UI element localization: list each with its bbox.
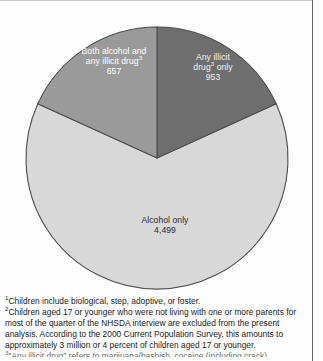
pie-chart-figure: Both alcohol and any illicit drug3 657 A… (0, 0, 323, 361)
pie-label-both-line2: any illicit drug (86, 56, 139, 66)
footnote-3: 3"Any illicit drug" refers to marijuana/… (5, 351, 305, 357)
pie-label-illicit-line2: drug (193, 62, 210, 72)
pie-label-illicit-value: 953 (176, 72, 250, 82)
footnote-1: 1Children include biological, step, adop… (5, 296, 305, 307)
pie-label-alcohol-value: 4,499 (110, 225, 220, 235)
pie-label-both-footnote-marker: 3 (139, 54, 143, 61)
pie-chart-svg (0, 0, 323, 292)
pie-label-illicit-line3: only (217, 62, 233, 72)
pie-label-any-illicit-drug-only: Any illicit drug3 only 953 (176, 52, 250, 82)
pie-label-both-alcohol-and-illicit: Both alcohol and any illicit drug3 657 (58, 46, 170, 76)
footnote-3-text: "Any illicit drug" refers to marijuana/h… (5, 351, 269, 357)
pie-label-both-value: 657 (58, 66, 170, 76)
footnote-2: 2Children aged 17 or younger who were no… (5, 307, 305, 351)
pie-label-illicit-footnote-marker: 3 (211, 60, 215, 67)
pie-chart: Both alcohol and any illicit drug3 657 A… (0, 0, 323, 292)
footnote-1-text: Children include biological, step, adopt… (8, 296, 200, 306)
pie-label-both-line1: Both alcohol and (82, 46, 147, 56)
footnotes-block: 1Children include biological, step, adop… (5, 296, 305, 351)
pie-label-alcohol-line1: Alcohol only (142, 215, 189, 225)
footnote-2-text: Children aged 17 or younger who were not… (5, 307, 296, 350)
pie-label-alcohol-only: Alcohol only 4,499 (110, 215, 220, 235)
